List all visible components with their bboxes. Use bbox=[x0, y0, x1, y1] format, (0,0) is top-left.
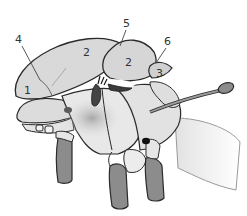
wing-base bbox=[175, 118, 240, 190]
label-4: 4 bbox=[15, 33, 22, 46]
hind-coxa bbox=[145, 157, 164, 201]
leader-line-6 bbox=[156, 48, 166, 63]
dark-spot-left bbox=[64, 107, 72, 113]
label-1: 1 bbox=[24, 84, 31, 97]
fore-coxa bbox=[57, 137, 73, 183]
middle-coxa bbox=[109, 164, 128, 209]
label-2-scutellum: 2 bbox=[125, 56, 132, 69]
label-2-scutum: 2 bbox=[83, 46, 90, 59]
small-sclerite-1 bbox=[36, 125, 43, 131]
label-6: 6 bbox=[164, 35, 171, 48]
label-5: 5 bbox=[123, 17, 130, 30]
label-3: 3 bbox=[156, 67, 163, 80]
small-sclerite-2 bbox=[45, 126, 53, 133]
hind-spiracle-dark bbox=[142, 138, 150, 144]
middle-coxa-base bbox=[124, 149, 146, 172]
haltere-knob bbox=[217, 81, 235, 96]
thorax-diagram: 1 2 2 3 4 5 6 bbox=[0, 0, 247, 216]
comb-bristles bbox=[98, 76, 107, 85]
